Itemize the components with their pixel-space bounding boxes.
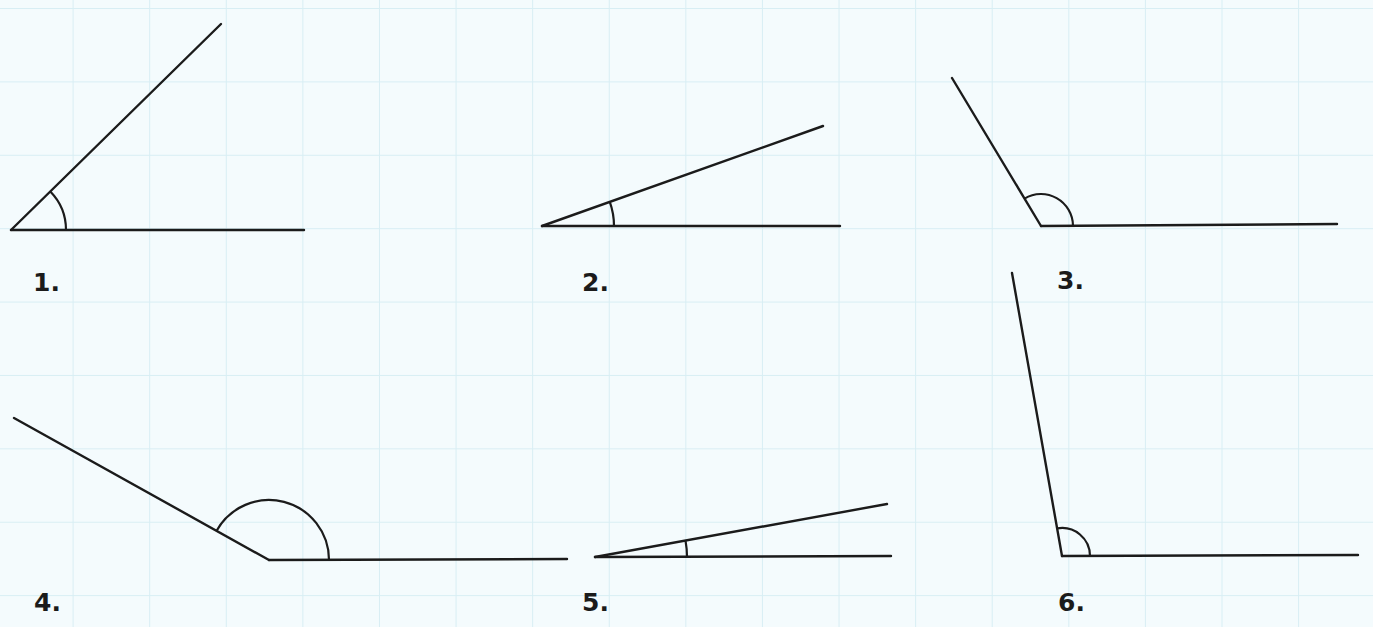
angle-6-label: 6. <box>1058 590 1085 615</box>
angle-6 <box>1012 273 1358 556</box>
angle-2-label: 2. <box>582 270 609 295</box>
angle-1-label: 1. <box>33 270 60 295</box>
angle-3 <box>952 78 1337 226</box>
angle-4-arc-marker <box>217 500 329 560</box>
angle-4-slant-ray <box>14 418 269 560</box>
angle-4-base-ray <box>269 559 567 560</box>
angle-4 <box>14 418 567 560</box>
angle-2-arc-marker <box>610 202 614 226</box>
angle-5-label: 5. <box>582 590 609 615</box>
angle-6-slant-ray <box>1012 273 1062 556</box>
angle-1-arc-marker <box>50 192 66 231</box>
angle-1 <box>11 24 304 230</box>
angle-5-slant-ray <box>595 504 887 557</box>
angle-5-base-ray <box>595 556 891 557</box>
angles-diagram <box>0 0 1373 627</box>
angle-1-slant-ray <box>11 24 221 230</box>
angle-3-slant-ray <box>952 78 1041 226</box>
angle-6-base-ray <box>1062 555 1358 556</box>
angle-2 <box>542 126 840 226</box>
angle-3-base-ray <box>1041 224 1337 226</box>
angle-3-label: 3. <box>1057 268 1084 293</box>
angle-5 <box>595 504 891 557</box>
angle-2-slant-ray <box>542 126 823 226</box>
angle-4-label: 4. <box>34 590 61 615</box>
angle-5-arc-marker <box>686 541 688 557</box>
